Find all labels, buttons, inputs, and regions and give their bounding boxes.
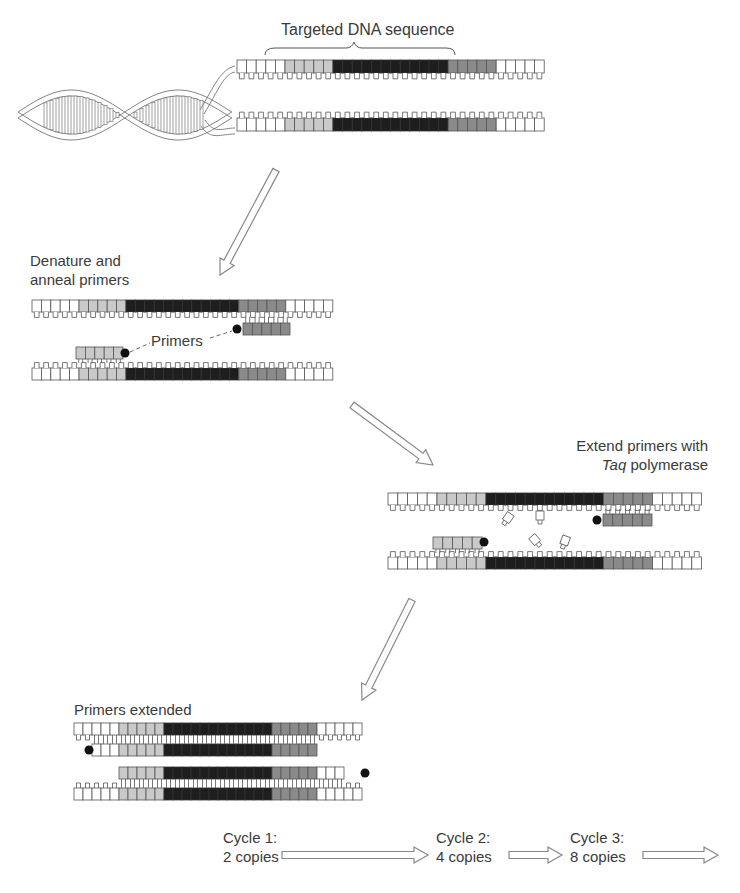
step-extended-label: Primers extended — [74, 700, 192, 719]
cycle-1-line2: 2 copies — [223, 847, 279, 866]
taq-italic: Taq — [602, 456, 626, 473]
primer-left — [76, 347, 123, 359]
target-brace — [265, 42, 455, 55]
primer-left-dot — [121, 349, 130, 358]
cycle-2-line1: Cycle 2: — [436, 828, 490, 847]
extend-top-strand — [388, 493, 702, 510]
extended-bottom-dot — [361, 769, 370, 778]
primer-right-pairs — [246, 317, 288, 323]
extended-bottom-new — [119, 767, 344, 779]
primer-right — [243, 323, 290, 335]
bottom-strand-separated — [237, 112, 544, 131]
extend-primer-left-dot — [480, 538, 489, 547]
step-denature-label-line1: Denature and — [30, 251, 121, 270]
cycle-1-line1: Cycle 1: — [223, 828, 277, 847]
extended-bottom-template — [74, 788, 362, 800]
top-strand-separated — [237, 60, 544, 79]
step-denature-label-line2: anneal primers — [30, 270, 129, 289]
template-tabs — [77, 735, 360, 788]
denatured-top-strand — [32, 300, 333, 317]
cycle-arrow-1 — [282, 847, 428, 863]
primers-label: Primers — [151, 331, 203, 350]
free-nucleotide-4 — [559, 535, 571, 550]
step-extend-label-line1: Extend primers with — [576, 436, 708, 455]
primer-right-dot — [233, 325, 242, 334]
arrow-to-extend — [350, 402, 433, 465]
extended-bottom-pairs — [122, 779, 342, 788]
extend-primer-right-dot — [593, 516, 602, 525]
cycle-2-line2: 4 copies — [436, 847, 492, 866]
denatured-bottom-strand — [32, 363, 333, 380]
arrow-to-extended — [362, 598, 416, 700]
free-nucleotide-3 — [529, 534, 543, 549]
dna-double-helix — [18, 66, 235, 140]
targeted-dna-label: Targeted DNA sequence — [281, 20, 454, 39]
free-nucleotide-1 — [500, 512, 514, 527]
extended-top-template — [74, 723, 362, 735]
polymerase-text: polymerase — [626, 456, 708, 473]
extend-bottom-strand — [388, 552, 702, 569]
extended-top-pairs — [95, 735, 315, 744]
cycle-3-line2: 8 copies — [570, 847, 626, 866]
step-extend-label-line2: Taq polymerase — [602, 455, 708, 474]
extend-primer-left — [433, 537, 482, 549]
cycle-arrow-3 — [643, 847, 718, 863]
free-nucleotide-2 — [536, 511, 544, 524]
arrow-to-denature — [220, 168, 279, 275]
extended-top-new — [92, 744, 317, 756]
extend-primer-right — [603, 514, 652, 526]
extended-top-dot — [85, 746, 94, 755]
cycle-3-line1: Cycle 3: — [570, 828, 624, 847]
cycle-arrow-2 — [509, 847, 562, 863]
